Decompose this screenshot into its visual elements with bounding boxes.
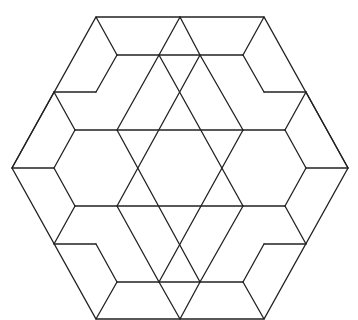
tiling-line xyxy=(200,206,243,282)
tiling-line xyxy=(243,282,264,319)
tiling-line xyxy=(96,55,117,92)
tiling-line xyxy=(180,282,200,319)
tiling-line xyxy=(117,55,159,130)
tiling-line xyxy=(285,130,306,168)
tiling-line xyxy=(159,282,180,319)
tiling-line xyxy=(117,206,159,282)
tiling-line xyxy=(96,244,117,282)
tiling-line xyxy=(285,206,306,244)
tiling-line xyxy=(285,92,306,130)
outer-hexagon xyxy=(12,17,348,319)
hexagon-tiling-diagram xyxy=(0,0,358,320)
tiling-line xyxy=(12,92,54,168)
tiling-line xyxy=(54,92,75,130)
tiling-line xyxy=(96,282,117,319)
tiling-line xyxy=(54,168,75,206)
tiling-line xyxy=(200,55,243,130)
tiling-line xyxy=(54,130,75,168)
tiling-line xyxy=(96,17,117,55)
tiling-line xyxy=(180,17,200,55)
tiling-line xyxy=(54,206,75,244)
tiling-line xyxy=(243,244,264,282)
tiling-line xyxy=(285,168,306,206)
tiling-line xyxy=(243,17,264,55)
tiling-line xyxy=(243,55,264,92)
tiling-line xyxy=(306,92,348,168)
tiling-line xyxy=(159,17,180,55)
